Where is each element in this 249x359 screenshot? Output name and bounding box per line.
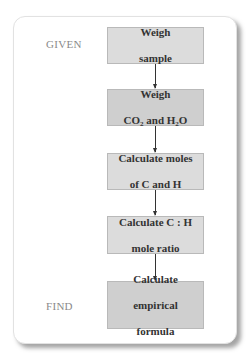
step-weigh-co2-h2o: Weigh CO2 and H2O	[107, 89, 204, 126]
step-line: empirical	[133, 299, 178, 312]
step-line: Calculate C : H	[119, 216, 192, 229]
step-weigh-sample: Weigh sample	[107, 27, 204, 64]
step-calculate-moles: Calculate moles of C and H	[107, 153, 204, 190]
step-line: Weigh	[124, 88, 188, 101]
step-line: Weigh	[139, 26, 172, 39]
step-calculate-formula: Calculate empirical formula	[107, 281, 204, 329]
step-line: mole ratio	[119, 242, 192, 255]
step-line: formula	[133, 325, 178, 338]
step-line: Calculate moles	[118, 152, 192, 165]
step-calculate-ratio: Calculate C : H mole ratio	[107, 216, 204, 254]
step-line: Calculate	[133, 273, 178, 286]
given-label: GIVEN	[46, 38, 106, 50]
find-label: FIND	[46, 300, 106, 312]
